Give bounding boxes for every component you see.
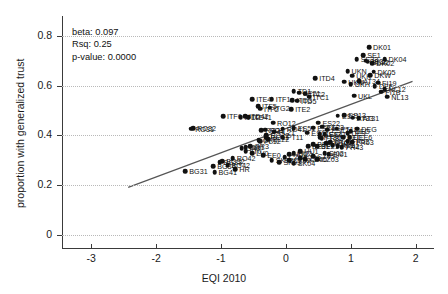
data-point: [349, 82, 354, 87]
data-point-label: ITD5: [301, 96, 317, 105]
data-point: [336, 113, 341, 118]
data-point-label: SI01: [333, 150, 348, 159]
data-point-label: FR43: [346, 142, 364, 151]
statistics-annotation: beta: 0.097 Rsq: 0.25 p-value: 0.0000: [72, 26, 136, 63]
data-point: [221, 114, 226, 119]
data-point-label: BG31: [189, 166, 207, 175]
x-tick: [221, 244, 222, 249]
pvalue-value: p-value: 0.0000: [72, 51, 136, 63]
data-point: [367, 45, 372, 50]
data-point: [354, 57, 359, 62]
y-tick: [57, 235, 62, 236]
data-point: [211, 164, 216, 169]
data-point: [373, 84, 378, 89]
data-point-label: AT31: [363, 114, 380, 123]
data-point: [352, 93, 357, 98]
y-tick-label: 0.8: [0, 29, 52, 41]
x-tick: [91, 244, 92, 249]
x-axis-title: EQI 2010: [0, 272, 448, 284]
data-point: [189, 126, 194, 131]
data-point: [334, 126, 339, 131]
data-point-label: ITD4: [319, 74, 335, 83]
x-tick: [286, 244, 287, 249]
data-point: [289, 107, 294, 112]
data-point: [385, 95, 390, 100]
x-tick-label: 0: [266, 252, 306, 264]
data-point: [246, 115, 251, 120]
data-point-label: UKL: [358, 91, 372, 100]
data-point-label: HR: [239, 165, 249, 174]
data-point: [356, 116, 361, 121]
data-point: [212, 170, 217, 175]
data-point: [320, 124, 325, 129]
data-point: [183, 169, 188, 174]
data-point-label: SE22: [372, 57, 390, 66]
data-point-label: EE0: [267, 151, 281, 160]
data-point: [258, 106, 263, 111]
data-point-label: RO31: [195, 124, 214, 133]
gridline-y: [62, 185, 432, 186]
data-point: [365, 59, 370, 64]
data-point-label: NL13: [391, 92, 408, 101]
y-tick: [57, 185, 62, 186]
data-point: [225, 163, 230, 168]
data-point: [233, 167, 238, 172]
data-point: [264, 135, 269, 140]
x-tick-label: 2: [396, 252, 436, 264]
rsq-value: Rsq: 0.25: [72, 38, 136, 50]
x-tick: [351, 244, 352, 249]
data-point: [345, 69, 350, 74]
data-point: [311, 125, 316, 130]
data-point: [342, 80, 347, 85]
data-point: [291, 89, 296, 94]
x-tick: [416, 244, 417, 249]
data-point: [238, 115, 243, 120]
data-point: [295, 98, 300, 103]
y-tick-label: 0: [0, 228, 52, 240]
data-point-label: RO42: [237, 154, 256, 163]
gridline-y: [62, 135, 432, 136]
x-tick-label: -2: [136, 252, 176, 264]
x-tick-label: 1: [331, 252, 371, 264]
data-point-label: UKH: [355, 80, 370, 89]
gridline-y: [62, 235, 432, 236]
x-axis-line: [62, 248, 434, 249]
y-tick: [57, 36, 62, 37]
y-tick-label: 0.2: [0, 178, 52, 190]
data-point: [342, 113, 347, 118]
y-tick-label: 0.6: [0, 79, 52, 91]
x-tick-label: -1: [201, 252, 241, 264]
data-point: [261, 153, 266, 158]
x-tick: [156, 244, 157, 249]
data-point: [326, 152, 331, 157]
data-point: [250, 97, 255, 102]
data-point-label: RO11: [270, 133, 288, 142]
beta-value: beta: 0.097: [72, 26, 136, 38]
data-point: [297, 90, 302, 95]
data-point-label: ITE2: [295, 105, 310, 114]
data-point: [313, 76, 318, 81]
y-tick: [57, 86, 62, 87]
data-point: [230, 156, 235, 161]
y-tick: [57, 135, 62, 136]
data-point-label: ITD41: [252, 113, 272, 122]
scatter-chart: DK01SE1DK04SE33SE32DK02SE22UKNDK05UKKDKW…: [0, 0, 448, 294]
data-point: [350, 115, 355, 120]
data-point-label: ITG2: [274, 103, 290, 112]
data-point: [259, 128, 264, 133]
x-tick-label: -3: [71, 252, 111, 264]
y-tick-label: 0.4: [0, 128, 52, 140]
data-point: [379, 90, 384, 95]
data-point: [267, 105, 272, 110]
data-point: [305, 130, 310, 135]
